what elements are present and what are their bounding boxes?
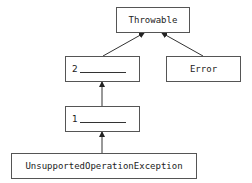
arrow-error-to-throwable <box>162 33 203 56</box>
arrow-2-to-throwable <box>103 33 144 56</box>
blank-1-answer-line <box>80 115 126 123</box>
unsupported-label: UnsupportedOperationException <box>25 161 182 171</box>
blank-1-number: 1 <box>72 114 78 124</box>
throwable-label: Throwable <box>129 15 178 25</box>
error-node: Error <box>166 56 241 82</box>
blank-2-answer-line <box>80 65 126 73</box>
error-label: Error <box>190 64 217 74</box>
blank-2-number: 2 <box>72 64 78 74</box>
unsupported-operation-exception-node: UnsupportedOperationException <box>11 153 197 179</box>
throwable-node: Throwable <box>116 7 190 33</box>
blank-1-node: 1 <box>65 106 140 132</box>
blank-2-node: 2 <box>65 56 140 82</box>
